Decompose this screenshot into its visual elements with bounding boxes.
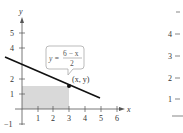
x-axis-label: x (126, 105, 131, 114)
x-tick-4: 4 (83, 114, 87, 123)
equation-lhs: y = (48, 54, 59, 63)
x-axis-arrow (119, 107, 125, 111)
y-tick-1: 1 (10, 90, 14, 99)
x-tick-6: 6 (115, 114, 119, 123)
y-tick-4: 4 (10, 44, 14, 53)
equation-denominator: 2 (70, 59, 74, 68)
shaded-rectangle (22, 86, 69, 109)
right-y-tick-2: 2 (168, 74, 172, 83)
x-tick-5: 5 (99, 114, 103, 123)
point-marker (67, 84, 71, 88)
y-tick-2: 2 (10, 75, 14, 84)
y-tick-5: 5 (10, 29, 14, 38)
x-tick-1: 1 (36, 114, 40, 123)
y-axis-label: y (18, 7, 23, 16)
y-axis-arrow (20, 17, 24, 23)
point-label: (x, y) (72, 75, 90, 84)
chart-canvas: x y 1 2 3 4 5 6 5 4 2 1 −1 (x, y) y = 6 … (0, 0, 183, 133)
right-y-tick-4: 4 (168, 30, 172, 39)
equation-callout: y = 6 − x 2 (46, 46, 84, 75)
right-y-tick-1: 1 (168, 95, 172, 104)
x-tick-3: 3 (67, 114, 71, 123)
equation-numerator: 6 − x (63, 49, 79, 58)
x-tick-2: 2 (51, 114, 55, 123)
right-y-tick-3: 3 (168, 52, 172, 61)
right-chart-partial: 4 3 2 1 (168, 12, 183, 116)
y-tick-neg1: −1 (4, 120, 13, 129)
